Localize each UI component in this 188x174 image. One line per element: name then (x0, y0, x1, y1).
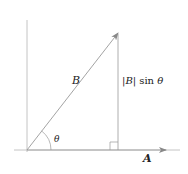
angle-arc (42, 131, 51, 150)
vector-b-arrow (27, 33, 118, 150)
angle-theta-label: θ (54, 134, 60, 144)
vector-b-label: B (71, 74, 80, 87)
projection-label: |B| sin θ (122, 75, 163, 87)
right-angle-marker (110, 142, 118, 150)
vector-projection-diagram: B θ A |B| sin θ (0, 0, 188, 174)
vector-a-label: A (142, 152, 152, 165)
